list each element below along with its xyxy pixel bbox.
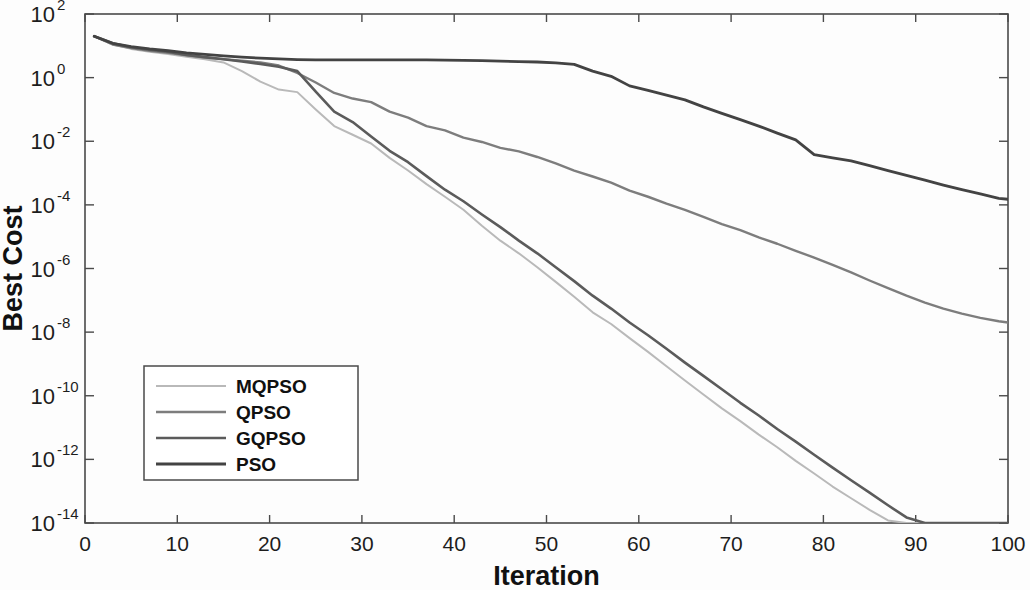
y-tick-label: 10-2 (31, 123, 71, 154)
legend-label-pso: PSO (236, 454, 276, 475)
y-tick-label-mantissa: 10 (31, 447, 55, 472)
legend: MQPSOQPSOGQPSOPSO (144, 366, 358, 480)
y-tick-label: 10-4 (31, 187, 71, 218)
y-tick-label-mantissa: 10 (31, 257, 55, 282)
series-line-qpso (94, 36, 1008, 322)
y-tick-label-mantissa: 10 (31, 320, 55, 345)
y-tick-label: 100 (31, 60, 66, 91)
legend-label-qpso: QPSO (236, 402, 291, 423)
y-tick-label-exponent: -6 (57, 251, 70, 268)
y-tick-label-exponent: -2 (57, 123, 70, 140)
x-tick-label: 90 (904, 532, 927, 555)
x-tick-label: 70 (719, 532, 742, 555)
plot-area: 010203040506070809010010210010-210-410-6… (0, 0, 1026, 590)
y-tick-label: 10-6 (31, 251, 71, 282)
y-tick-label-exponent: -4 (57, 187, 70, 204)
y-tick-label: 10-8 (31, 314, 71, 345)
x-tick-label: 10 (166, 532, 189, 555)
x-tick-label: 40 (443, 532, 466, 555)
x-tick-label: 20 (258, 532, 281, 555)
x-tick-label: 50 (535, 532, 558, 555)
best-cost-convergence-chart: 010203040506070809010010210010-210-410-6… (0, 0, 1030, 590)
x-tick-label: 60 (627, 532, 650, 555)
y-tick-label-mantissa: 10 (31, 193, 55, 218)
y-tick-label-mantissa: 10 (31, 384, 55, 409)
y-tick-label-exponent: -14 (57, 505, 79, 522)
legend-label-mqpso: MQPSO (236, 376, 307, 397)
y-tick-label-exponent: -8 (57, 314, 70, 331)
x-tick-label: 0 (79, 532, 91, 555)
y-tick-label-mantissa: 10 (31, 66, 55, 91)
y-tick-label: 10-10 (31, 378, 79, 409)
x-tick-label: 80 (812, 532, 835, 555)
x-axis-label: Iteration (493, 561, 600, 590)
chart-figure: 010203040506070809010010210010-210-410-6… (0, 0, 1030, 590)
y-tick-label-mantissa: 10 (31, 2, 55, 27)
y-tick-label-mantissa: 10 (31, 511, 55, 536)
y-tick-label: 10-14 (31, 505, 79, 536)
y-tick-label: 102 (31, 0, 66, 27)
y-tick-label: 10-12 (31, 441, 79, 472)
y-tick-label-exponent: 2 (57, 0, 65, 13)
legend-label-gqpso: GQPSO (236, 428, 306, 449)
x-tick-label: 30 (350, 532, 373, 555)
y-tick-label-exponent: -12 (57, 441, 79, 458)
y-axis-label: Best Cost (0, 205, 28, 331)
y-tick-label-exponent: 0 (57, 60, 65, 77)
y-tick-label-mantissa: 10 (31, 129, 55, 154)
x-tick-label: 100 (990, 532, 1025, 555)
y-tick-label-exponent: -10 (57, 378, 79, 395)
